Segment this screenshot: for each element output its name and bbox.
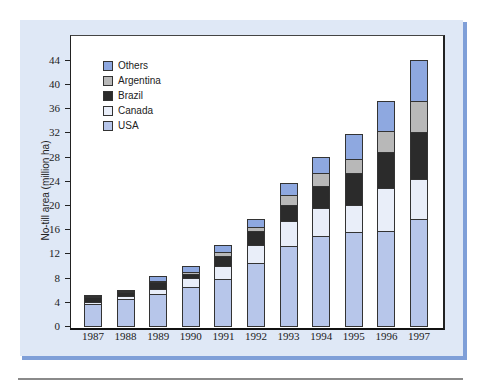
y-tick-label: 4 <box>55 296 61 308</box>
bar-segment-canada <box>345 205 363 233</box>
legend-item: Argentina <box>103 73 161 88</box>
bar-segment-argentina <box>377 131 395 153</box>
bar-segment-others <box>117 290 135 292</box>
y-tick-mark <box>65 132 70 133</box>
x-tick-label: 1992 <box>239 330 273 342</box>
bar-segment-others <box>247 219 265 228</box>
bottom-rule <box>18 378 463 380</box>
bar-segment-others <box>345 134 363 160</box>
y-tick-label: 20 <box>49 199 60 211</box>
y-tick-mark <box>65 205 70 206</box>
y-tick-mark <box>65 278 70 279</box>
y-tick-mark <box>65 253 70 254</box>
bar-segment-canada <box>214 266 232 280</box>
y-tick-mark <box>65 229 70 230</box>
panel-shadow-bottom <box>22 356 466 360</box>
x-tick-label: 1994 <box>304 330 338 342</box>
bar-segment-usa <box>247 263 265 327</box>
legend-label: Others <box>118 60 148 71</box>
x-tick-label: 1996 <box>369 330 403 342</box>
bar-segment-brazil <box>410 132 428 180</box>
y-tick-mark <box>65 181 70 182</box>
bar-segment-brazil <box>280 205 298 222</box>
y-tick-label: 8 <box>55 272 61 284</box>
bar-segment-others <box>214 245 232 253</box>
y-tick-mark <box>65 326 70 327</box>
bar-segment-usa <box>182 287 200 327</box>
x-tick-label: 1988 <box>109 330 143 342</box>
bar-segment-argentina <box>280 195 298 206</box>
x-tick-label: 1989 <box>141 330 175 342</box>
legend-label: Brazil <box>118 90 143 101</box>
bar-segment-others <box>410 60 428 102</box>
y-tick-label: 24 <box>49 175 60 187</box>
bar-segment-canada <box>377 188 395 232</box>
bar-segment-usa <box>312 236 330 327</box>
y-tick: 4 <box>0 296 70 308</box>
x-tick-label: 1997 <box>402 330 436 342</box>
bar-segment-others <box>312 157 330 174</box>
x-tick-label: 1995 <box>337 330 371 342</box>
legend-label: Argentina <box>118 75 161 86</box>
bar-segment-argentina <box>312 173 330 187</box>
bar-segment-brazil <box>214 256 232 267</box>
y-tick-label: 28 <box>49 151 60 163</box>
legend-swatch <box>103 91 113 101</box>
y-tick-label: 44 <box>49 54 60 66</box>
bar-segment-usa <box>149 294 167 327</box>
y-tick: 12 <box>0 247 70 259</box>
x-tick-label: 1991 <box>206 330 240 342</box>
y-tick-label: 12 <box>49 247 60 259</box>
y-tick: 28 <box>0 151 70 163</box>
y-tick-mark <box>65 108 70 109</box>
bar-segment-others <box>149 276 167 282</box>
legend-label: Canada <box>118 105 153 116</box>
legend-swatch <box>103 61 113 71</box>
y-tick-label: 40 <box>49 78 60 90</box>
bar-segment-others <box>377 101 395 132</box>
y-tick-label: 16 <box>49 223 60 235</box>
bar-segment-usa <box>280 246 298 327</box>
bar-segment-usa <box>410 219 428 327</box>
legend-swatch <box>103 121 113 131</box>
x-tick-label: 1987 <box>76 330 110 342</box>
y-tick: 40 <box>0 78 70 90</box>
y-tick-label: 32 <box>49 126 60 138</box>
bar-segment-usa <box>345 232 363 327</box>
y-tick: 8 <box>0 272 70 284</box>
bar-segment-brazil <box>345 173 363 206</box>
bar-segment-brazil <box>312 186 330 209</box>
bar-segment-canada <box>312 208 330 237</box>
y-tick-label: 36 <box>49 102 60 114</box>
y-tick: 24 <box>0 175 70 187</box>
y-tick-mark <box>65 157 70 158</box>
bar-segment-others <box>280 183 298 195</box>
y-tick-label: 0 <box>55 320 61 332</box>
bar-segment-argentina <box>345 159 363 174</box>
legend-swatch <box>103 76 113 86</box>
y-tick-mark <box>65 84 70 85</box>
bar-segment-others <box>84 295 102 297</box>
bar-segment-usa <box>117 299 135 327</box>
bar-segment-canada <box>410 179 428 220</box>
bar-segment-others <box>182 266 200 273</box>
bar-segment-canada <box>182 278 200 288</box>
y-tick: 16 <box>0 223 70 235</box>
legend-item: Brazil <box>103 88 161 103</box>
bar-segment-canada <box>280 221 298 247</box>
y-tick: 20 <box>0 199 70 211</box>
bar-segment-usa <box>214 279 232 327</box>
y-tick: 36 <box>0 102 70 114</box>
bar-segment-argentina <box>410 101 428 133</box>
legend-item: Canada <box>103 103 161 118</box>
x-tick-label: 1990 <box>174 330 208 342</box>
legend-item: Others <box>103 58 161 73</box>
bar-segment-brazil <box>377 152 395 189</box>
y-tick: 44 <box>0 54 70 66</box>
legend-label: USA <box>118 120 139 131</box>
y-tick: 32 <box>0 126 70 138</box>
y-tick-mark <box>65 302 70 303</box>
bar-segment-usa <box>377 231 395 327</box>
x-tick-label: 1993 <box>272 330 306 342</box>
y-tick-mark <box>65 60 70 61</box>
